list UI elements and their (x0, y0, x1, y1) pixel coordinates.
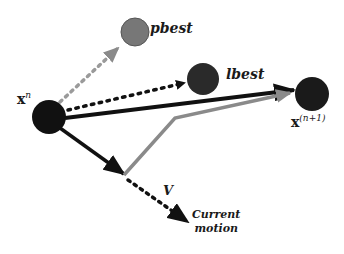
node-xn (32, 100, 66, 134)
node-lbest (187, 63, 219, 95)
label-lbest: lbest (226, 66, 264, 82)
label-xn1: x(n+1) (291, 113, 325, 130)
label-v: V (163, 183, 173, 198)
label-pbest: pbest (150, 20, 193, 36)
edge-xn-v (60, 128, 124, 174)
label-current-motion: Current motion (192, 208, 240, 236)
label-xn: xn (17, 90, 31, 107)
edge-xn-pbest (60, 48, 118, 102)
node-pbest (121, 18, 149, 46)
edge-current-motion (128, 180, 188, 222)
node-xn1 (295, 77, 329, 111)
pso-diagram: xn pbest lbest x(n+1) V Current motion (0, 0, 344, 254)
edge-v-xn1 (124, 93, 290, 175)
